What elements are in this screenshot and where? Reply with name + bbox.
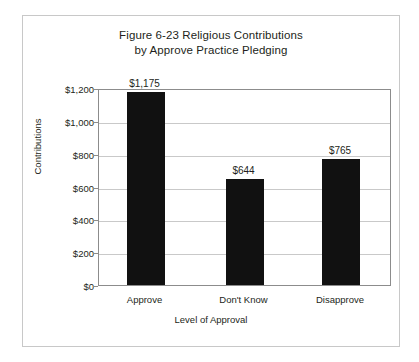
y-tick-label: $1,000 — [65, 116, 94, 127]
y-tick-mark — [93, 188, 98, 189]
x-category-label: Disapprove — [316, 294, 364, 305]
figure-container: Figure 6-23 Religious Contributions by A… — [22, 15, 400, 347]
y-tick-mark — [93, 89, 98, 90]
y-axis-tick-labels: $0$200$400$600$800$1,000$1,200 — [51, 89, 94, 286]
y-tick-label: $200 — [73, 248, 94, 259]
y-tick-mark — [93, 122, 98, 123]
y-tick-mark — [93, 220, 98, 221]
y-axis-title: Contributions — [32, 97, 43, 197]
bar-value-label: $644 — [232, 165, 254, 176]
bar-value-label: $1,175 — [129, 78, 160, 89]
chart-title-line-1: Figure 6-23 Religious Contributions — [23, 28, 399, 43]
bar-value-label: $765 — [329, 145, 351, 156]
x-axis-title: Level of Approval — [23, 314, 399, 325]
y-tick-mark — [93, 155, 98, 156]
y-tick-label: $400 — [73, 215, 94, 226]
y-tick-label: $800 — [73, 149, 94, 160]
bar-approve — [127, 92, 165, 285]
y-tick-label: $1,200 — [65, 84, 94, 95]
chart-title: Figure 6-23 Religious Contributions by A… — [23, 28, 399, 58]
bar-don-t-know — [226, 179, 264, 285]
bar-disapprove — [322, 159, 360, 285]
plot-area — [98, 89, 391, 286]
x-category-label: Approve — [127, 294, 162, 305]
y-tick-label: $600 — [73, 182, 94, 193]
x-category-label: Don't Know — [219, 294, 267, 305]
y-tick-mark — [93, 286, 98, 287]
y-tick-mark — [93, 253, 98, 254]
chart-title-line-2: by Approve Practice Pledging — [23, 43, 399, 58]
